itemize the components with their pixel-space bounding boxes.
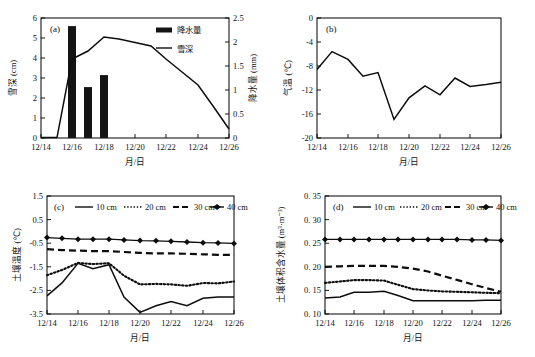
panel-a-y2tick-3: 1.5 xyxy=(233,61,244,71)
panel-d-xtick-4: 12/22 xyxy=(432,318,452,328)
panel-c-series-10cm xyxy=(47,263,234,312)
panel-d-series-40cm xyxy=(322,236,504,243)
panel-c-y-axis: -3.5 -2.5 -1.5 -0.5 0.5 1.5 xyxy=(30,191,51,319)
panel-a-snow-precipitation: 0 1 2 3 4 5 6 0 0.5 1 1.5 2 xyxy=(0,0,268,178)
legend-d-label-40cm: 40 cm xyxy=(496,203,517,212)
panel-a-tag: (a) xyxy=(50,24,60,34)
panel-d-tag: (d) xyxy=(333,202,344,212)
panel-a-xtick-3: 12/20 xyxy=(125,142,145,152)
panel-c-ytick-3: -0.5 xyxy=(30,238,43,248)
panel-a-xtick-5: 12/24 xyxy=(188,142,208,152)
panel-c-xtick-0: 12/14 xyxy=(37,318,57,328)
legend-d-label-10cm: 10 cm xyxy=(374,203,395,212)
panel-c-series-30cm xyxy=(47,249,234,255)
legend-c-label-10cm: 10 cm xyxy=(96,203,117,212)
panel-a-left-axis: 0 1 2 3 4 5 6 xyxy=(33,13,45,143)
panel-a-ytick-5: 5 xyxy=(33,33,37,43)
panel-d-ytick-2: 0. 20 xyxy=(304,262,321,272)
bar-12-16 xyxy=(68,26,76,138)
panel-d-xtick-3: 12/20 xyxy=(403,318,423,328)
panel-b-y-axis: -20 -16 -12 -8 -4 0 xyxy=(302,13,321,143)
panel-c-ytick-1: -2.5 xyxy=(30,285,43,295)
panel-c-xtick-6: 12/26 xyxy=(224,318,244,328)
legend-c-label-20cm: 20 cm xyxy=(145,203,166,212)
legend-label-precipitation: 降水量 xyxy=(177,25,201,35)
panel-b-air-temperature: -20 -16 -12 -8 -4 0 12/14 12/16 12/18 12… xyxy=(267,0,535,178)
legend-d-label-20cm: 20 cm xyxy=(421,203,442,212)
panel-a-xtick-4: 12/22 xyxy=(156,142,176,152)
panel-b-ytick-1: -16 xyxy=(302,109,313,119)
panel-c-xtick-5: 12/24 xyxy=(193,318,213,328)
panel-c-series-40cm xyxy=(44,235,237,247)
panel-c-xtick-2: 12/18 xyxy=(99,318,119,328)
panel-d-ytick-1: 0. 15 xyxy=(304,285,321,295)
legend-label-snowdepth: 雪深 xyxy=(177,45,193,54)
panel-b-xtick-4: 12/22 xyxy=(430,142,450,152)
panel-d-xtick-1: 12/16 xyxy=(344,318,364,328)
panel-d-xlabel: 月/日 xyxy=(403,333,423,343)
panel-d-series-20cm xyxy=(325,280,501,293)
panel-a-ytick-6: 6 xyxy=(33,13,37,23)
panel-c-legend: 10 cm 20 cm 30 cm 40 cm xyxy=(75,203,248,212)
bar-12-17 xyxy=(84,87,92,138)
panel-d-xtick-0: 12/14 xyxy=(315,318,335,328)
panel-c-xtick-3: 12/20 xyxy=(130,318,150,328)
panel-a-right-axis: 0 0.5 1 1.5 2 2.5 xyxy=(225,13,244,143)
panel-d-ytick-4: 0. 30 xyxy=(304,215,321,225)
legend-bar-swatch xyxy=(156,28,172,33)
panel-b-ytick-2: -12 xyxy=(302,85,313,95)
panel-b-xtick-0: 12/14 xyxy=(307,142,327,152)
panel-b-ytick-5: 0 xyxy=(309,13,313,23)
panel-c-ytick-2: -1.5 xyxy=(30,262,43,272)
panel-d-x-axis: 12/14 12/16 12/18 12/20 12/22 12/24 12/2… xyxy=(315,310,511,328)
panel-a-y2label: 降水量 (mm) xyxy=(247,54,258,102)
panel-c-xtick-4: 12/22 xyxy=(161,318,181,328)
panel-d-soil-water-content: 0. 10 0. 15 0. 20 0. 25 0. 30 0. 35 12/1… xyxy=(267,178,535,357)
four-panel-figure: 0 1 2 3 4 5 6 0 0.5 1 1.5 2 xyxy=(0,0,535,357)
panel-c-ytick-5: 1.5 xyxy=(32,191,43,201)
panel-a-ytick-3: 3 xyxy=(33,73,37,83)
panel-d-xtick-5: 12/24 xyxy=(462,318,482,328)
panel-a-y2tick-4: 2 xyxy=(233,37,237,47)
panel-a-xtick-1: 12/16 xyxy=(62,142,82,152)
panel-a-y2tick-2: 1 xyxy=(233,85,237,95)
panel-a-y2tick-5: 2.5 xyxy=(233,13,244,23)
bar-12-18 xyxy=(100,75,108,138)
panel-d-xtick-2: 12/18 xyxy=(374,318,394,328)
panel-b-tag: (b) xyxy=(326,24,337,34)
panel-a-ytick-1: 1 xyxy=(33,113,37,123)
panel-b-ytick-3: -8 xyxy=(306,61,313,71)
panel-b-plot-frame xyxy=(317,18,501,138)
panel-a-ytick-4: 4 xyxy=(33,53,38,63)
legend-c-label-40cm: 40 cm xyxy=(227,203,248,212)
panel-c-xlabel: 月/日 xyxy=(130,333,150,343)
panel-b-xtick-2: 12/18 xyxy=(368,142,388,152)
panel-c-tag: (c) xyxy=(54,202,64,212)
panel-a-ytick-2: 2 xyxy=(33,93,37,103)
panel-a-legend: 降水量 雪深 xyxy=(156,25,201,54)
panel-b-ylabel: 气温 (℃) xyxy=(282,60,293,96)
panel-b-xtick-1: 12/16 xyxy=(338,142,358,152)
panel-d-plot-frame xyxy=(325,196,501,314)
panel-b-xtick-5: 12/24 xyxy=(460,142,480,152)
panel-a-x-axis: 12/14 12/16 12/18 12/20 12/22 12/24 12/2… xyxy=(31,134,239,152)
panel-b-ytick-4: -4 xyxy=(306,37,314,47)
panel-a-y2tick-1: 0.5 xyxy=(233,109,244,119)
panel-c-ylabel: 土壤温度 (℃) xyxy=(11,228,22,282)
panel-a-precipitation-bars xyxy=(68,26,108,138)
panel-d-ylabel: 土壤体积含水量 (m³·m⁻³) xyxy=(275,206,286,303)
panel-d-xtick-6: 12/26 xyxy=(491,318,511,328)
panel-b-x-axis: 12/14 12/16 12/18 12/20 12/22 12/24 12/2… xyxy=(307,134,511,152)
panel-d-ytick-5: 0. 35 xyxy=(304,191,321,201)
panel-c-xtick-1: 12/16 xyxy=(68,318,88,328)
panel-a-xtick-2: 12/18 xyxy=(94,142,114,152)
panel-a-ylabel: 雪深 (cm) xyxy=(8,60,18,97)
panel-c-ytick-4: 0.5 xyxy=(32,215,43,225)
panel-c-soil-temperature: -3.5 -2.5 -1.5 -0.5 0.5 1.5 12/14 12/16 … xyxy=(0,178,268,357)
panel-d-ytick-3: 0. 25 xyxy=(304,238,321,248)
panel-d-legend: 10 cm 20 cm 30 cm 40 cm xyxy=(353,203,517,212)
panel-b-xtick-3: 12/20 xyxy=(399,142,419,152)
panel-b-airtemp-line xyxy=(317,52,501,120)
panel-d-series-30cm xyxy=(325,266,501,292)
panel-b-xlabel: 月/日 xyxy=(399,157,419,167)
